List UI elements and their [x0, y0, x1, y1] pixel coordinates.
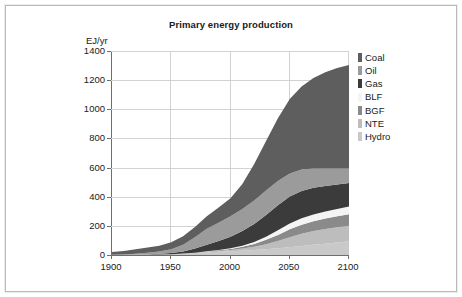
x-tick-label: 1900: [91, 261, 131, 272]
x-tick-mark: [111, 255, 112, 259]
legend-item-label: Coal: [365, 53, 385, 63]
legend-swatch-icon: [358, 79, 362, 88]
x-tick-mark: [289, 255, 290, 259]
legend-item-label: Oil: [365, 66, 377, 76]
y-tick-label: 1000: [61, 103, 105, 114]
area-series-svg: [112, 51, 349, 255]
legend-swatch-icon: [358, 106, 362, 115]
plot-area: [111, 51, 349, 256]
y-tick-label: 0: [61, 249, 105, 260]
legend-item-label: Gas: [365, 79, 382, 89]
page-title: Primary energy production: [6, 19, 456, 30]
y-tick-label: 1200: [61, 74, 105, 85]
x-tick-label: 1950: [150, 261, 190, 272]
y-tick-label: 800: [61, 132, 105, 143]
legend-swatch-icon: [358, 132, 362, 141]
y-tick-mark: [107, 168, 111, 169]
y-tick-label: 600: [61, 162, 105, 173]
y-tick-label: 200: [61, 220, 105, 231]
legend-item-label: BLF: [365, 92, 382, 102]
x-tick-label: 2100: [328, 261, 368, 272]
legend-swatch-icon: [358, 119, 362, 128]
legend-item-blf[interactable]: BLF: [358, 91, 428, 104]
legend-item-hydro[interactable]: Hydro: [358, 130, 428, 143]
legend-swatch-icon: [358, 66, 362, 75]
x-tick-mark: [348, 255, 349, 259]
legend-item-bgf[interactable]: BGF: [358, 104, 428, 117]
legend-swatch-icon: [358, 53, 362, 62]
legend-item-oil[interactable]: Oil: [358, 64, 428, 77]
chart-card: Primary energy production EJ/yr 02004006…: [5, 5, 457, 292]
legend-item-coal[interactable]: Coal: [358, 51, 428, 64]
y-tick-mark: [107, 138, 111, 139]
legend-item-label: BGF: [365, 106, 385, 116]
x-tick-mark: [170, 255, 171, 259]
legend-item-nte[interactable]: NTE: [358, 117, 428, 130]
legend-swatch-icon: [358, 93, 362, 102]
y-tick-mark: [107, 197, 111, 198]
legend: CoalOilGasBLFBGFNTEHydro: [358, 51, 428, 143]
y-tick-mark: [107, 226, 111, 227]
y-tick-label: 1400: [61, 45, 105, 56]
y-tick-mark: [107, 80, 111, 81]
x-tick-mark: [230, 255, 231, 259]
legend-item-label: Hydro: [365, 132, 390, 142]
x-tick-label: 2050: [269, 261, 309, 272]
y-tick-mark: [107, 51, 111, 52]
y-tick-mark: [107, 109, 111, 110]
x-tick-label: 2000: [210, 261, 250, 272]
legend-item-label: NTE: [365, 119, 384, 129]
legend-item-gas[interactable]: Gas: [358, 77, 428, 90]
y-tick-label: 400: [61, 191, 105, 202]
